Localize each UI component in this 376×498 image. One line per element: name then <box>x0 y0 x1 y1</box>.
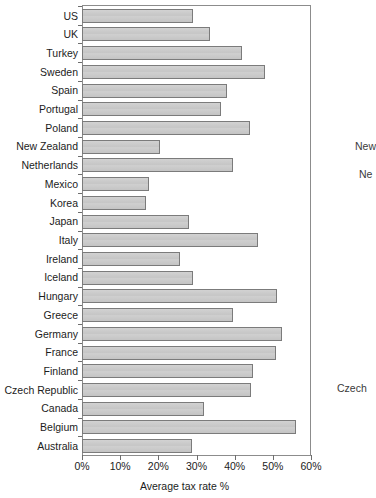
bar-row <box>82 287 311 307</box>
y-axis-label: Netherlands <box>0 156 78 176</box>
y-axis-label: Belgium <box>0 418 78 438</box>
bar-row <box>82 361 311 381</box>
bar <box>82 402 204 416</box>
y-axis-label: Turkey <box>0 43 78 63</box>
bar <box>82 9 193 23</box>
bar-row <box>82 305 311 325</box>
bar <box>82 27 210 41</box>
bar-row <box>82 25 311 45</box>
y-axis-label: UK <box>0 25 78 45</box>
x-axis-tick-label: 30% <box>186 461 207 473</box>
bar <box>82 346 276 360</box>
bar-row <box>82 212 311 232</box>
bar <box>82 383 251 397</box>
y-axis-label: Japan <box>0 212 78 232</box>
bar-row <box>82 268 311 288</box>
bar-row <box>82 137 311 157</box>
y-axis-label: Mexico <box>0 174 78 194</box>
bar <box>82 233 258 247</box>
bar <box>82 364 253 378</box>
bar <box>82 196 146 210</box>
y-axis-label: Italy <box>0 231 78 251</box>
bar-row <box>82 193 311 213</box>
bar-row <box>82 81 311 101</box>
bar-row <box>82 6 311 26</box>
bar-row <box>82 399 311 419</box>
bar <box>82 65 265 79</box>
y-axis-category-labels: USUKTurkeySwedenSpainPortugalPolandNew Z… <box>0 6 78 455</box>
ghost-text-fragment-1: New <box>355 140 376 152</box>
bar-row <box>82 343 311 363</box>
bar-row <box>82 156 311 176</box>
y-axis-label: Canada <box>0 399 78 419</box>
bar <box>82 177 149 191</box>
bar-row <box>82 43 311 63</box>
bar <box>82 327 282 341</box>
bar-row <box>82 249 311 269</box>
bar-row <box>82 174 311 194</box>
y-axis-label: Ireland <box>0 249 78 269</box>
bar-row <box>82 324 311 344</box>
bar-row <box>82 62 311 82</box>
x-axis-tick-label: 10% <box>110 461 131 473</box>
bar-row <box>82 436 311 456</box>
y-axis-label: Germany <box>0 324 78 344</box>
x-axis-tick-label: 40% <box>224 461 245 473</box>
y-axis-label: Korea <box>0 193 78 213</box>
y-axis-label: US <box>0 6 78 26</box>
bar <box>82 84 227 98</box>
y-axis-label: Finland <box>0 361 78 381</box>
bar <box>82 308 233 322</box>
y-axis-label: New Zealand <box>0 137 78 157</box>
ghost-text-fragment-2: Ne <box>359 168 372 180</box>
bar-row <box>82 231 311 251</box>
bars-container <box>82 6 311 455</box>
x-axis-tick-label: 50% <box>262 461 283 473</box>
x-axis-tick-labels: 0%10%20%30%40%50%60% <box>0 461 369 475</box>
y-axis-label: Iceland <box>0 268 78 288</box>
bar <box>82 140 160 154</box>
y-axis-label: Hungary <box>0 287 78 307</box>
bar <box>82 289 277 303</box>
y-axis-label: Greece <box>0 305 78 325</box>
bar <box>82 215 189 229</box>
bar-row <box>82 418 311 438</box>
bar-row <box>82 380 311 400</box>
bar-row <box>82 118 311 138</box>
y-axis-label: Australia <box>0 436 78 456</box>
bar <box>82 102 221 116</box>
x-axis-tick-label: 0% <box>74 461 89 473</box>
bar <box>82 439 192 453</box>
y-axis-label: France <box>0 343 78 363</box>
y-axis-label: Sweden <box>0 62 78 82</box>
bar <box>82 121 250 135</box>
ghost-text-fragment-3: Czech <box>337 382 367 394</box>
bar <box>82 271 193 285</box>
bar-row <box>82 100 311 120</box>
x-axis-tick-label: 60% <box>300 461 321 473</box>
x-axis-tick-label: 20% <box>148 461 169 473</box>
bar <box>82 158 233 172</box>
bar <box>82 252 180 266</box>
x-axis-title: Average tax rate % <box>0 480 369 492</box>
bar <box>82 420 296 434</box>
y-axis-label: Poland <box>0 118 78 138</box>
bar <box>82 46 242 60</box>
y-axis-label: Portugal <box>0 100 78 120</box>
y-axis-label: Spain <box>0 81 78 101</box>
y-axis-label: Czech Republic <box>0 380 78 400</box>
